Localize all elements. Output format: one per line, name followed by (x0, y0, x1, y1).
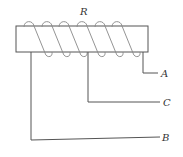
label-c: C (163, 97, 171, 108)
lead-a (143, 52, 158, 73)
label-r: R (79, 6, 88, 17)
label-a: A (160, 68, 168, 79)
lead-b (31, 52, 160, 140)
label-b: B (161, 132, 169, 143)
rheostat-diagram: R A C B (0, 0, 183, 157)
lead-c (88, 52, 160, 102)
